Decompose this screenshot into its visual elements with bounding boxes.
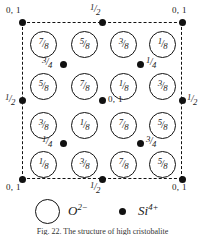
oxygen-atom: 7/8 <box>110 151 137 178</box>
silicon-height-label-upper-left: 3/4 <box>42 58 52 68</box>
oxygen-atom: 5/8 <box>149 112 176 139</box>
oxygen-height-fraction: 1/8 <box>39 160 49 170</box>
legend: O2− Si4+ <box>0 196 205 226</box>
oxygen-atom: 1/8 <box>71 112 98 139</box>
oxygen-atom: 3/8 <box>71 151 98 178</box>
silicon-atom-interior <box>137 140 144 147</box>
crystal-structure-figure: 7/8 5/8 3/8 1/8 5/8 7/8 1/8 3/8 3/8 1/8 … <box>0 0 205 235</box>
oxygen-atom: 7/8 <box>30 31 57 58</box>
oxygen-height-fraction: 3/8 <box>119 40 129 50</box>
silicon-height-label-lower-left: 1/4 <box>42 137 52 147</box>
silicon-height-label-lower-right: 3/4 <box>146 137 156 147</box>
edge-label-bottom-mid: 1/2 <box>90 183 100 193</box>
oxygen-atom: 5/8 <box>71 31 98 58</box>
oxygen-atom: 7/8 <box>71 73 98 100</box>
oxygen-height-fraction: 1/8 <box>80 121 90 131</box>
oxygen-atom: 1/8 <box>149 31 176 58</box>
corner-label-bottom-left: 0, 1 <box>6 183 21 192</box>
oxygen-height-fraction: 5/8 <box>39 82 49 92</box>
figure-caption: Fig. 22. The structure of high cristobal… <box>0 228 205 235</box>
silicon-atom-interior <box>60 140 67 147</box>
silicon-atom-corner <box>19 19 26 26</box>
corner-label-top-right: 0, 1 <box>172 6 187 15</box>
legend-silicon-icon <box>119 208 126 215</box>
silicon-atom-interior <box>137 61 144 68</box>
edge-label-mid-right: 1/2 <box>187 95 197 105</box>
silicon-height-label-upper-right: 1/4 <box>146 58 156 68</box>
silicon-atom-corner <box>179 19 186 26</box>
oxygen-height-fraction: 7/8 <box>119 121 129 131</box>
legend-silicon-label: Si4+ <box>138 203 159 217</box>
silicon-atom-edge <box>179 97 186 104</box>
oxygen-atom: 3/8 <box>149 73 176 100</box>
oxygen-height-fraction: 7/8 <box>39 40 49 50</box>
oxygen-height-fraction: 3/8 <box>39 121 49 131</box>
oxygen-atom: 3/8 <box>110 31 137 58</box>
silicon-atom-edge <box>99 19 106 26</box>
oxygen-height-fraction: 3/8 <box>158 82 168 92</box>
oxygen-height-fraction: 3/8 <box>80 160 90 170</box>
silicon-atom-edge <box>99 176 106 183</box>
corner-label-bottom-right: 0, 1 <box>172 183 187 192</box>
oxygen-atom: 7/8 <box>110 112 137 139</box>
oxygen-atom: 5/8 <box>30 73 57 100</box>
oxygen-height-fraction: 1/8 <box>158 40 168 50</box>
center-label: 0, 1 <box>108 95 123 104</box>
corner-label-top-left: 0, 1 <box>6 6 21 15</box>
legend-oxygen-icon <box>35 199 60 224</box>
edge-label-mid-left: 1/2 <box>5 95 15 105</box>
silicon-atom-edge <box>19 97 26 104</box>
oxygen-height-fraction: 5/8 <box>158 160 168 170</box>
edge-label-top-mid: 1/2 <box>90 5 100 15</box>
oxygen-height-fraction: 1/8 <box>119 82 129 92</box>
oxygen-height-fraction: 7/8 <box>119 160 129 170</box>
oxygen-height-fraction: 7/8 <box>80 82 90 92</box>
oxygen-height-fraction: 5/8 <box>80 40 90 50</box>
silicon-atom-center <box>99 97 106 104</box>
legend-oxygen-label: O2− <box>68 203 88 217</box>
oxygen-atom: 5/8 <box>149 151 176 178</box>
oxygen-height-fraction: 5/8 <box>158 121 168 131</box>
oxygen-atom: 1/8 <box>30 151 57 178</box>
silicon-atom-interior <box>60 61 67 68</box>
